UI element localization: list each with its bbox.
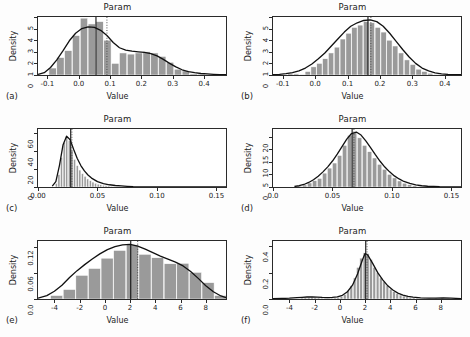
density-plot-svg [273,129,461,187]
histogram-bar [428,73,433,75]
panel-letter: (e) [6,315,18,325]
y-tick-label: 5 [262,17,270,39]
histogram-bar [104,40,111,75]
x-axis-label: Value [235,92,470,101]
histogram-bar [397,181,401,187]
x-tick-label: -4 [286,304,293,312]
histogram-bar [135,53,142,75]
histogram-bar [410,65,415,75]
histogram-bar [417,186,421,187]
y-axis-label: Density [9,16,18,76]
histogram-bars [301,253,450,299]
y-tick-mark [34,247,37,248]
histogram-bar [357,138,361,187]
histogram-bar [402,296,405,299]
density-plot-svg [38,241,226,299]
panel-title: Param [235,2,470,12]
x-tick-label: 0.4 [439,80,450,88]
plot-area [272,128,462,188]
x-tick-mark [204,76,205,79]
histogram-bar [352,27,357,75]
histogram-bar [312,181,316,187]
panel-e: ParamDensity0.00.060.12-4-202468Value(e) [0,224,235,336]
x-tick-mark [80,300,81,303]
y-tick-label: 0.12 [27,247,35,269]
histogram-bars [297,133,426,187]
histogram-bar [307,183,311,187]
histogram-bar [342,145,346,187]
density-plot-svg [38,17,226,75]
histogram-bar [89,181,91,187]
panel-f: ParamDensity0.00.20.4-4-202468Value(f) [235,224,470,336]
x-tick-label: 0.1 [104,80,115,88]
x-tick-mark [97,188,98,191]
x-tick-label: 8 [204,304,208,312]
x-tick-label: 0.1 [342,80,353,88]
histogram-bar [57,58,64,75]
x-tick-label: 6 [178,304,182,312]
histogram-bar [404,60,409,75]
y-axis-label: Density [244,16,253,76]
x-tick-mark [181,300,182,303]
histogram-bar [114,250,126,299]
x-tick-label: -2 [311,304,318,312]
histogram-bar [55,183,57,187]
histogram-bar [346,33,351,75]
x-tick-label: 0.00 [30,192,46,200]
histogram-bar [352,133,356,187]
histogram-bar [375,27,380,75]
x-tick-label: 0.05 [325,192,341,200]
panel-letter: (b) [241,91,253,101]
histogram-bar [65,51,72,75]
x-tick-label: 2 [128,304,132,312]
x-tick-label: -0.1 [41,80,55,88]
histogram-bar [393,292,396,299]
y-tick-mark [269,246,272,247]
histogram-bar [398,53,403,75]
histogram-bar [327,168,331,187]
y-tick-mark [269,299,272,300]
panel-letter: (d) [241,203,253,213]
histogram-bar [126,245,138,299]
histogram-bar [110,186,112,187]
histogram-bar [92,182,94,187]
histogram-bar [88,24,95,75]
x-tick-mark [289,300,290,303]
histogram-bar [87,179,89,187]
x-tick-mark [445,76,446,79]
histogram-bar [79,170,81,187]
y-tick-mark [269,137,272,138]
histogram-bar [392,178,396,187]
x-tick-label: 0.0 [73,80,84,88]
x-tick-label: 0.15 [209,192,225,200]
x-tick-mark [390,300,391,303]
histogram-bar [102,185,104,187]
x-tick-label: -2 [76,304,83,312]
x-tick-label: 8 [439,304,443,312]
histogram-bar [323,59,328,75]
histogram-bar [337,155,341,187]
histogram-bar [367,152,371,187]
histogram-bar [340,296,343,299]
y-tick-mark [34,133,37,134]
x-tick-mark [332,188,333,191]
x-tick-label: 0 [338,304,342,312]
x-tick-mark [392,188,393,191]
histogram-bar [190,74,197,75]
y-axis-label: Density [9,240,18,300]
histogram-bar [112,63,119,75]
histogram-bar [412,186,416,187]
x-tick-label: 0.0 [267,192,278,200]
y-axis-label: Density [244,240,253,300]
x-axis-label: Value [0,92,235,101]
x-tick-mark [110,76,111,79]
histogram-bar [152,258,164,299]
y-tick-mark [269,17,272,18]
figure-grid-of-density-histograms: ParamDensity012345-0.10.00.10.20.30.4Val… [0,0,470,337]
histogram-bar [382,169,386,187]
y-tick-mark [269,273,272,274]
histogram-bar [369,23,374,75]
x-tick-label: 0.15 [444,192,460,200]
panel-b: ParamDensity012345-0.10.00.10.20.30.4Val… [235,0,470,112]
x-tick-label: 0.10 [149,192,165,200]
